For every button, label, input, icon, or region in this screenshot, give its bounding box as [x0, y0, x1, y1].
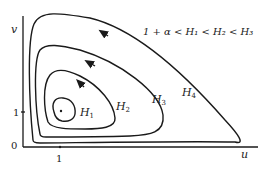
y-axis-label: v [11, 23, 18, 36]
orbit-h3-arrow [88, 62, 95, 66]
orbit-h2-arrow [79, 82, 84, 87]
equilibrium-point [60, 110, 62, 112]
x-tick-label: 1 [56, 153, 62, 164]
phase-portrait: v u 0 1 1 H1 H2 H3 H4 1 + α < H₁ < H₂ < … [0, 0, 275, 171]
condition-text: 1 + α < H₁ < H₂ < H₃ [143, 26, 253, 37]
orbit-h3 [35, 45, 163, 137]
label-h3: H3 [151, 93, 166, 107]
x-tick [59, 146, 61, 148]
label-h1: H1 [79, 106, 94, 120]
orbit-h4-arrow [102, 32, 108, 36]
orbit-h1 [53, 98, 75, 121]
label-h4: H4 [181, 86, 197, 100]
y-tick-label: 1 [13, 107, 19, 118]
label-h2: H2 [115, 100, 130, 114]
origin-label: 0 [11, 140, 17, 151]
x-axis-label: u [241, 148, 248, 161]
